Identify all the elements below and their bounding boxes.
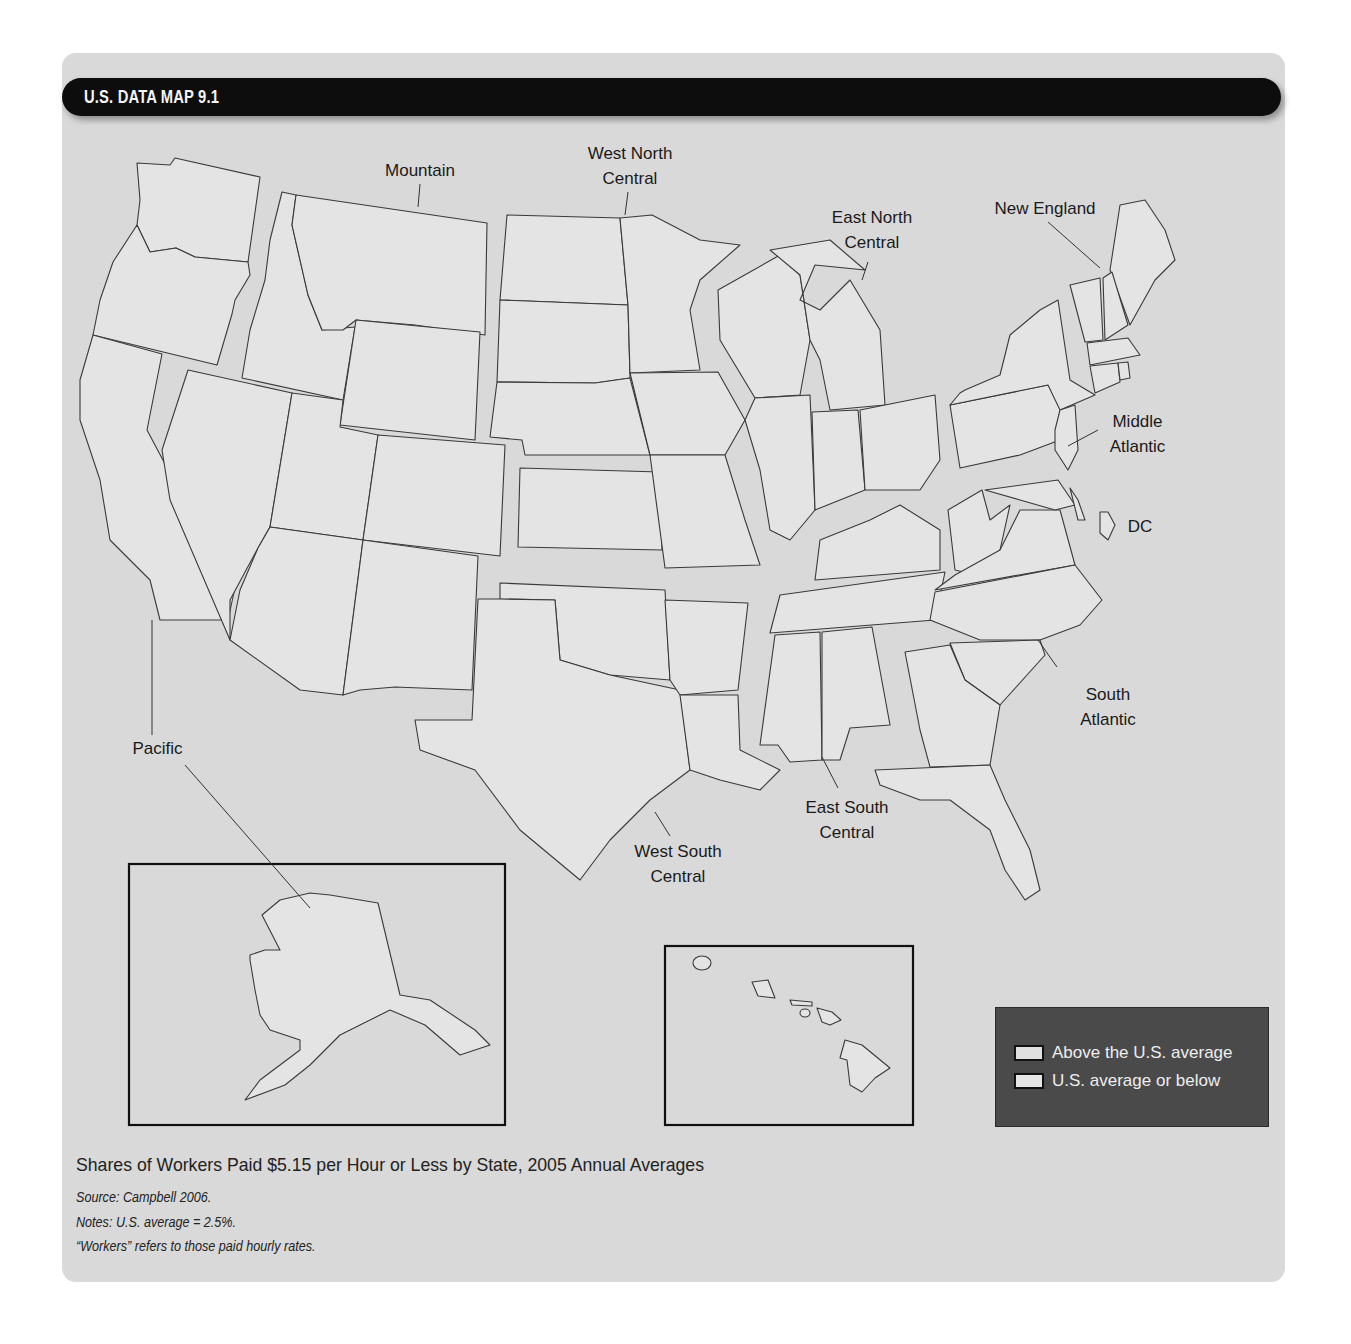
label-text: New England [994, 199, 1095, 218]
leader-wnc [625, 192, 628, 215]
island-hawaii[interactable] [840, 1040, 890, 1092]
island-molokai[interactable] [790, 1000, 812, 1006]
label-line: South [1063, 682, 1153, 707]
state-rhode-island[interactable] [1118, 362, 1130, 380]
label-line: Central [570, 166, 690, 191]
us-map [0, 0, 1351, 1344]
caption-footnote: “Workers” refers to those paid hourly ra… [76, 1238, 315, 1254]
state-kentucky[interactable] [815, 505, 940, 580]
state-maryland[interactable] [985, 480, 1075, 510]
label-line: East South [787, 795, 907, 820]
label-text: Pacific [132, 739, 182, 758]
island-maui[interactable] [817, 1008, 841, 1025]
region-west-north-central [490, 215, 760, 568]
legend-item-above: Above the U.S. average [1014, 1043, 1233, 1063]
state-arkansas[interactable] [665, 600, 748, 695]
state-connecticut[interactable] [1090, 363, 1120, 393]
legend: Above the U.S. average U.S. average or b… [995, 1007, 1269, 1127]
state-missouri[interactable] [650, 455, 760, 568]
hawaii-inset [665, 946, 913, 1125]
state-iowa[interactable] [630, 372, 745, 455]
state-wisconsin[interactable] [718, 255, 810, 398]
label-line: Atlantic [1063, 707, 1153, 732]
legend-label: Above the U.S. average [1052, 1043, 1233, 1063]
state-new-mexico[interactable] [343, 540, 478, 695]
island-kauai[interactable] [693, 956, 711, 970]
label-pacific: Pacific [120, 736, 195, 761]
state-montana[interactable] [292, 195, 487, 335]
label-line: Central [812, 230, 932, 255]
state-alabama[interactable] [822, 627, 890, 760]
state-wyoming[interactable] [340, 320, 480, 440]
region-new-england [1070, 200, 1175, 393]
label-line: West South [618, 839, 738, 864]
label-line: Central [618, 864, 738, 889]
label-line: East North [812, 205, 932, 230]
hawaii-islands [693, 956, 890, 1092]
state-colorado[interactable] [363, 435, 505, 556]
leader-pacific-alaska [185, 765, 310, 908]
state-washington[interactable] [137, 158, 260, 262]
label-west-north-central: West NorthCentral [570, 141, 690, 191]
state-tennessee[interactable] [770, 572, 945, 633]
swatch-at-or-below-average [1014, 1073, 1044, 1089]
region-middle-atlantic [950, 300, 1095, 470]
legend-label: U.S. average or below [1052, 1071, 1220, 1091]
leader-esc [822, 757, 838, 788]
state-kansas[interactable] [518, 468, 662, 550]
label-west-south-central: West SouthCentral [618, 839, 738, 889]
state-nebraska[interactable] [490, 378, 650, 455]
leader-new-england [1048, 222, 1100, 268]
label-text: Mountain [385, 161, 455, 180]
region-east-south-central [760, 505, 945, 762]
caption-source: Source: Campbell 2006. [76, 1189, 211, 1205]
label-line: Central [787, 820, 907, 845]
leader-mountain [418, 184, 420, 207]
label-middle-atlantic: MiddleAtlantic [1090, 409, 1185, 459]
state-massachusetts[interactable] [1087, 338, 1140, 365]
state-vermont[interactable] [1070, 278, 1103, 342]
state-ohio[interactable] [860, 395, 940, 490]
state-alaska[interactable] [245, 893, 490, 1100]
region-east-north-central [718, 240, 940, 540]
label-line: West North [570, 141, 690, 166]
label-east-south-central: East SouthCentral [787, 795, 907, 845]
label-line: Atlantic [1090, 434, 1185, 459]
label-east-north-central: East NorthCentral [812, 205, 932, 255]
state-mississippi[interactable] [760, 632, 822, 762]
state-indiana[interactable] [812, 410, 865, 510]
caption-title: Shares of Workers Paid $5.15 per Hour or… [76, 1154, 704, 1176]
island-lanai[interactable] [800, 1009, 810, 1017]
dc[interactable] [1100, 512, 1115, 540]
state-illinois[interactable] [745, 395, 815, 540]
label-dc: DC [1120, 514, 1160, 539]
label-mountain: Mountain [370, 158, 470, 183]
caption-notes: Notes: U.S. average = 2.5%. [76, 1214, 236, 1230]
state-south-dakota[interactable] [497, 300, 630, 383]
label-south-atlantic: SouthAtlantic [1063, 682, 1153, 732]
state-new-jersey[interactable] [1055, 405, 1078, 470]
label-new-england: New England [980, 196, 1110, 221]
island-oahu[interactable] [752, 980, 775, 998]
legend-item-below: U.S. average or below [1014, 1071, 1220, 1091]
state-north-dakota[interactable] [500, 215, 628, 305]
label-text: DC [1128, 517, 1153, 536]
label-line: Middle [1090, 409, 1185, 434]
leader-enc [862, 262, 868, 280]
swatch-above-average [1014, 1045, 1044, 1061]
leader-wsc [655, 812, 670, 836]
